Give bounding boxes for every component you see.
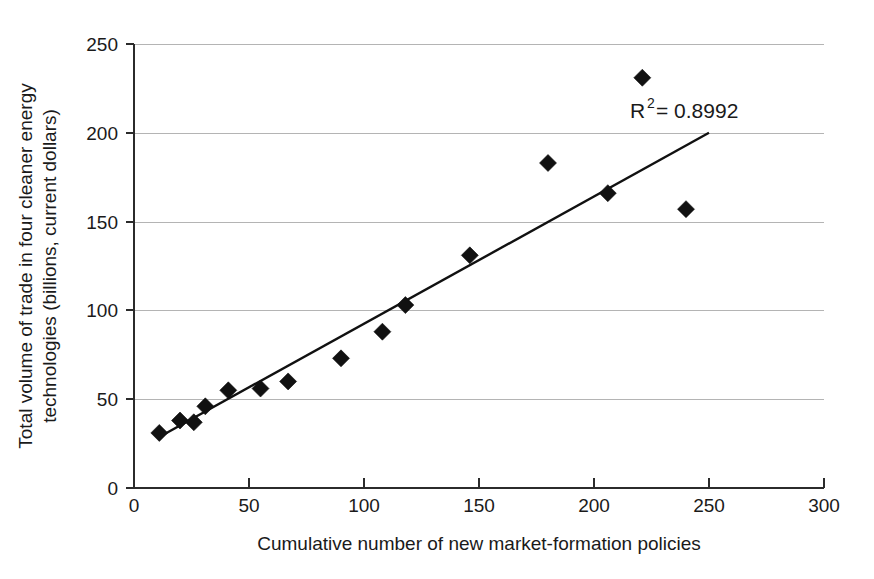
data-point-marker (333, 350, 350, 367)
data-point-marker (280, 373, 297, 390)
gridlines (134, 44, 824, 399)
y-tick-label-0: 0 (107, 478, 118, 499)
x-tick-label-150: 150 (463, 495, 495, 516)
r-squared-annotation: R 2 = 0.8992 (630, 95, 738, 122)
data-point-marker (252, 380, 269, 397)
y-tick-label-200: 200 (86, 123, 118, 144)
scatter-plot-figure: 0 50 100 150 200 250 0 50 100 150 200 25… (0, 0, 874, 579)
data-point-marker (172, 412, 189, 429)
x-tick-marks (134, 478, 824, 488)
r-squared-value: = 0.8992 (656, 99, 738, 122)
x-tick-label-0: 0 (129, 495, 140, 516)
y-axis-title-line-2: technologies (billions, current dollars) (39, 109, 60, 423)
y-tick-label-50: 50 (97, 389, 118, 410)
y-tick-label-250: 250 (86, 34, 118, 55)
data-point-marker (599, 185, 616, 202)
data-point-marker (185, 414, 202, 431)
trend-line (157, 133, 709, 438)
x-tick-label-100: 100 (348, 495, 380, 516)
y-axis-title: Total volume of trade in four cleaner en… (15, 83, 60, 449)
data-point-marker (540, 154, 557, 171)
y-axis-title-line-1: Total volume of trade in four cleaner en… (15, 83, 36, 449)
r-squared-prefix: R (630, 99, 645, 122)
chart-canvas: 0 50 100 150 200 250 0 50 100 150 200 25… (0, 0, 874, 579)
x-tick-labels: 0 50 100 150 200 250 300 (129, 495, 840, 516)
y-tick-label-100: 100 (86, 300, 118, 321)
x-tick-label-50: 50 (238, 495, 259, 516)
y-tick-marks (126, 44, 134, 488)
data-point-marker (197, 398, 214, 415)
y-tick-labels: 0 50 100 150 200 250 (86, 34, 118, 499)
data-point-marker (397, 297, 414, 314)
data-point-marker (151, 424, 168, 441)
data-point-marker (374, 323, 391, 340)
x-tick-label-300: 300 (808, 495, 840, 516)
y-tick-label-150: 150 (86, 212, 118, 233)
x-tick-label-250: 250 (693, 495, 725, 516)
data-point-marker (634, 69, 651, 86)
r-squared-superscript: 2 (647, 95, 655, 111)
x-tick-label-200: 200 (578, 495, 610, 516)
data-points (151, 69, 695, 441)
data-point-marker (678, 201, 695, 218)
x-axis-title: Cumulative number of new market-formatio… (257, 533, 701, 554)
